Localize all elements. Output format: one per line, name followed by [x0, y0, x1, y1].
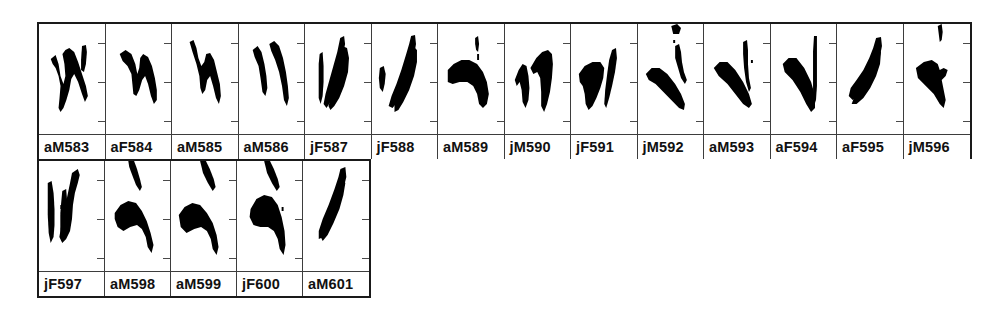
spectrogram-plot [638, 24, 704, 134]
syllable-trace-icon [438, 24, 504, 134]
spectrogram-plot [505, 24, 571, 134]
syllable-trace-icon [372, 24, 438, 134]
spectrogram-panel[interactable]: jF597 [39, 161, 105, 296]
syllable-trace-icon [237, 161, 302, 271]
spectrogram-panel[interactable]: jM590 [505, 24, 572, 159]
spectrogram-panel[interactable]: aF595 [837, 24, 904, 159]
spectrogram-panel[interactable]: jF591 [571, 24, 638, 159]
spectrogram-plot [303, 161, 369, 271]
spectrogram-plot [771, 24, 837, 134]
panel-label: aM583 [39, 134, 105, 159]
spectrogram-panel[interactable]: jF600 [237, 161, 303, 296]
spectrogram-panel[interactable]: aM589 [438, 24, 505, 159]
panel-label: jM596 [904, 134, 971, 159]
syllable-trace-icon [638, 24, 704, 134]
syllable-trace-icon [39, 24, 105, 134]
spectrogram-panel[interactable]: aF584 [106, 24, 173, 159]
spectrogram-plot [39, 24, 105, 134]
spectrogram-plot [239, 24, 305, 134]
panel-label: aM599 [171, 271, 236, 296]
spectrogram-plot [372, 24, 438, 134]
panel-label: aM598 [105, 271, 170, 296]
spectrogram-panel[interactable]: jM596 [904, 24, 971, 159]
spectrogram-panel[interactable]: aM598 [105, 161, 171, 296]
spectrogram-plot [837, 24, 903, 134]
spectrogram-panel[interactable]: jF588 [372, 24, 439, 159]
spectrogram-plot [704, 24, 770, 134]
panel-label: aM589 [438, 134, 504, 159]
spectrogram-panel[interactable]: jM592 [638, 24, 705, 159]
panel-row-2: jF597 aM598 aM599 [37, 159, 371, 298]
syllable-trace-icon [105, 161, 170, 271]
panel-label: jM590 [505, 134, 571, 159]
panel-label: aF584 [106, 134, 172, 159]
syllable-trace-icon [171, 161, 236, 271]
syllable-trace-icon [106, 24, 172, 134]
spectrogram-panel[interactable]: aM599 [171, 161, 237, 296]
syllable-trace-icon [305, 24, 371, 134]
spectrogram-plot [438, 24, 504, 134]
spectrogram-plot [904, 24, 971, 134]
spectrogram-panel[interactable]: aM593 [704, 24, 771, 159]
spectrogram-panel[interactable]: aM586 [239, 24, 306, 159]
panel-label: jF600 [237, 271, 302, 296]
spectrogram-plot [571, 24, 637, 134]
spectrogram-plot [172, 24, 238, 134]
spectrogram-figure: aM583 aF584 aM585 [37, 22, 972, 298]
spectrogram-plot [237, 161, 302, 271]
panel-label: aM601 [303, 271, 369, 296]
syllable-trace-icon [837, 24, 903, 134]
syllable-trace-icon [239, 24, 305, 134]
syllable-trace-icon [771, 24, 837, 134]
panel-label: jF591 [571, 134, 637, 159]
syllable-trace-icon [172, 24, 238, 134]
spectrogram-panel[interactable]: jF587 [305, 24, 372, 159]
spectrogram-panel[interactable]: aM583 [39, 24, 106, 159]
syllable-trace-icon [505, 24, 571, 134]
syllable-trace-icon [303, 161, 369, 271]
spectrogram-panel[interactable]: aM601 [303, 161, 369, 296]
spectrogram-plot [105, 161, 170, 271]
panel-label: jM592 [638, 134, 704, 159]
spectrogram-plot [305, 24, 371, 134]
panel-label: aM586 [239, 134, 305, 159]
syllable-trace-icon [39, 161, 104, 271]
panel-label: aM585 [172, 134, 238, 159]
spectrogram-plot [39, 161, 104, 271]
spectrogram-plot [171, 161, 236, 271]
syllable-trace-icon [904, 24, 971, 134]
panel-label: jF597 [39, 271, 104, 296]
syllable-trace-icon [704, 24, 770, 134]
panel-label: aF594 [771, 134, 837, 159]
panel-label: jF588 [372, 134, 438, 159]
panel-label: aF595 [837, 134, 903, 159]
spectrogram-panel[interactable]: aF594 [771, 24, 838, 159]
spectrogram-plot [106, 24, 172, 134]
panel-label: aM593 [704, 134, 770, 159]
panel-row-1: aM583 aF584 aM585 [37, 22, 972, 159]
panel-label: jF587 [305, 134, 371, 159]
spectrogram-panel[interactable]: aM585 [172, 24, 239, 159]
syllable-trace-icon [571, 24, 637, 134]
